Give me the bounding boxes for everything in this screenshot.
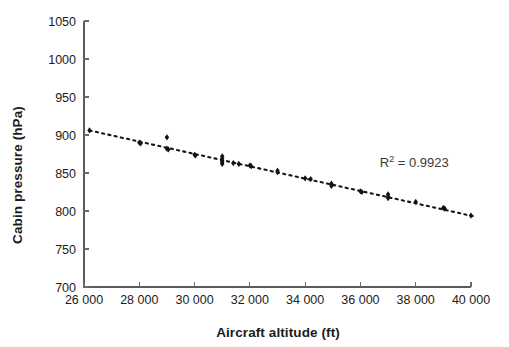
scatter-plot: 70075080085090095010001050 26 00028 0003… — [0, 0, 509, 347]
data-point — [231, 160, 235, 166]
x-tick-label: 38 000 — [397, 293, 435, 307]
y-axis-title: Cabin pressure (hPa) — [10, 106, 25, 244]
data-point — [237, 161, 241, 167]
data-point — [469, 212, 473, 218]
x-tick-label: 36 000 — [341, 293, 379, 307]
x-axis-title: Aircraft altitude (ft) — [216, 325, 340, 340]
y-tick-label: 1000 — [48, 53, 76, 67]
x-tick-label: 28 000 — [120, 293, 158, 307]
x-axis-ticks — [84, 282, 471, 287]
y-tick-label: 850 — [55, 167, 76, 181]
y-tick-label: 900 — [55, 129, 76, 143]
x-tick-label: 26 000 — [65, 293, 103, 307]
data-point — [308, 176, 312, 182]
r-squared-annotation: R2 = 0.9923 — [380, 154, 449, 170]
r-squared-prefix: R — [380, 155, 389, 170]
y-axis-tick-labels: 70075080085090095010001050 — [48, 15, 76, 295]
data-points — [87, 127, 473, 218]
data-point — [87, 127, 91, 133]
x-axis-tick-labels: 26 00028 00030 00032 00034 00036 00038 0… — [65, 293, 490, 307]
y-tick-label: 750 — [55, 243, 76, 257]
y-axis-ticks — [84, 21, 89, 287]
x-tick-label: 30 000 — [175, 293, 213, 307]
data-point — [165, 134, 169, 140]
x-tick-label: 40 000 — [452, 293, 490, 307]
y-tick-label: 950 — [55, 91, 76, 105]
y-tick-label: 1050 — [48, 15, 76, 29]
y-tick-label: 800 — [55, 205, 76, 219]
chart-figure: 70075080085090095010001050 26 00028 0003… — [0, 0, 509, 347]
x-tick-label: 32 000 — [231, 293, 269, 307]
r-squared-value: = 0.9923 — [394, 155, 449, 170]
x-tick-label: 34 000 — [286, 293, 324, 307]
data-point — [303, 175, 307, 181]
